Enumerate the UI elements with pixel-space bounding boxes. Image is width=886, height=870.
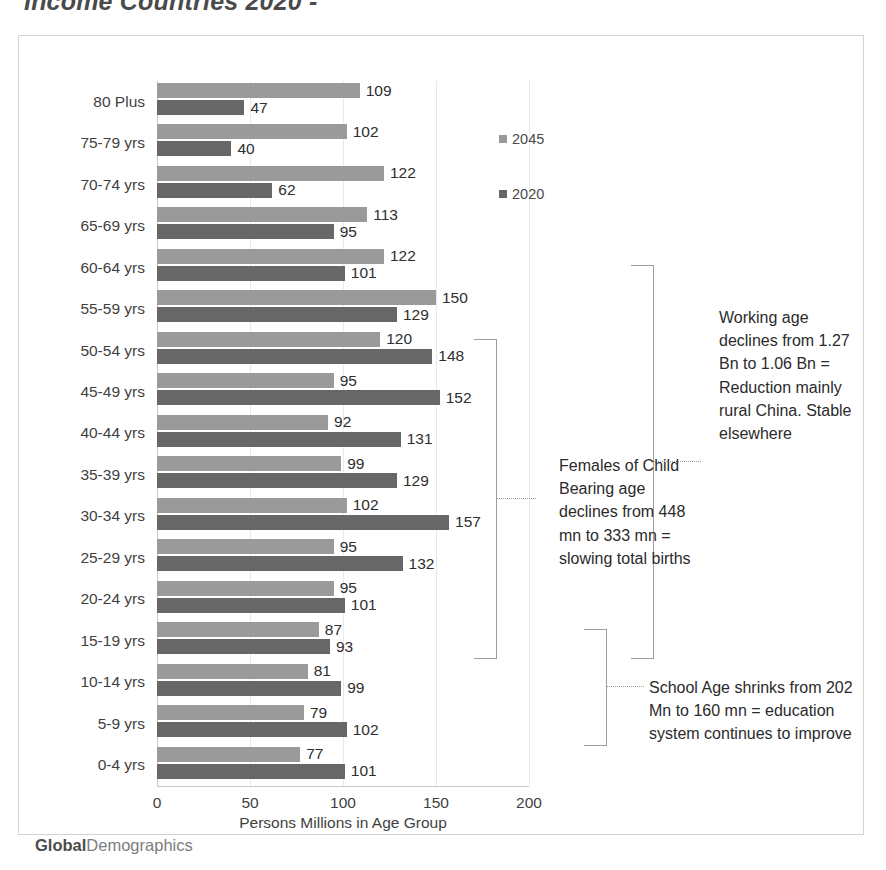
bar-2045[interactable]: 102 bbox=[157, 124, 347, 139]
x-axis-title: Persons Millions in Age Group bbox=[157, 814, 529, 832]
x-tick-label: 0 bbox=[153, 794, 162, 812]
bar-2045[interactable]: 92 bbox=[157, 415, 328, 430]
category-label: 45-49 yrs bbox=[80, 383, 145, 401]
bar-2045[interactable]: 79 bbox=[157, 705, 304, 720]
bar-value-label: 129 bbox=[403, 472, 429, 490]
bar-2020[interactable]: 40 bbox=[157, 141, 231, 156]
annotation-females: Females of Child Bearing age declines fr… bbox=[559, 454, 699, 570]
bar-value-label: 93 bbox=[336, 638, 353, 656]
bar-value-label: 81 bbox=[314, 662, 331, 680]
legend-label: 2020 bbox=[512, 186, 544, 202]
x-tick-label: 150 bbox=[423, 794, 449, 812]
category-label: 0-4 yrs bbox=[98, 756, 145, 774]
bar-2045[interactable]: 120 bbox=[157, 332, 380, 347]
category-label: 25-29 yrs bbox=[80, 549, 145, 567]
category-label: 15-19 yrs bbox=[80, 632, 145, 650]
watermark-bold: Global bbox=[35, 836, 86, 854]
bar-2020[interactable]: 132 bbox=[157, 556, 403, 571]
bar-row: 65-69 yrs11395 bbox=[157, 205, 529, 246]
bar-2020[interactable]: 101 bbox=[157, 266, 345, 281]
bar-2020[interactable]: 62 bbox=[157, 183, 272, 198]
bar-2045[interactable]: 95 bbox=[157, 373, 334, 388]
bar-row: 80 Plus10947 bbox=[157, 81, 529, 122]
bar-value-label: 92 bbox=[334, 413, 351, 431]
category-label: 80 Plus bbox=[93, 93, 145, 111]
bar-value-label: 101 bbox=[351, 596, 377, 614]
bar-row: 0-4 yrs77101 bbox=[157, 745, 529, 786]
category-label: 10-14 yrs bbox=[80, 673, 145, 691]
bar-2020[interactable]: 157 bbox=[157, 515, 449, 530]
watermark-rest: Demographics bbox=[86, 836, 192, 854]
bar-row: 75-79 yrs10240 bbox=[157, 122, 529, 163]
bar-value-label: 102 bbox=[353, 496, 379, 514]
bar-value-label: 95 bbox=[340, 223, 357, 241]
bar-2020[interactable]: 129 bbox=[157, 473, 397, 488]
bar-value-label: 79 bbox=[310, 704, 327, 722]
bar-row: 10-14 yrs8199 bbox=[157, 662, 529, 703]
bar-2045[interactable]: 87 bbox=[157, 622, 319, 637]
bar-value-label: 102 bbox=[353, 123, 379, 141]
bar-value-label: 122 bbox=[390, 247, 416, 265]
category-label: 40-44 yrs bbox=[80, 424, 145, 442]
bar-2020[interactable]: 101 bbox=[157, 598, 345, 613]
bar-2045[interactable]: 113 bbox=[157, 207, 367, 222]
bar-2045[interactable]: 150 bbox=[157, 290, 436, 305]
bracket-school-age-stub bbox=[606, 686, 644, 688]
bar-value-label: 152 bbox=[446, 389, 472, 407]
category-label: 60-64 yrs bbox=[80, 259, 145, 277]
bar-2020[interactable]: 152 bbox=[157, 390, 440, 405]
bar-value-label: 95 bbox=[340, 538, 357, 556]
bar-value-label: 101 bbox=[351, 762, 377, 780]
bar-2020[interactable]: 102 bbox=[157, 722, 347, 737]
bar-2045[interactable]: 77 bbox=[157, 747, 300, 762]
bar-value-label: 131 bbox=[407, 430, 433, 448]
bar-2020[interactable]: 47 bbox=[157, 100, 244, 115]
bar-value-label: 113 bbox=[373, 206, 398, 224]
legend-item-2045[interactable]: 2045 bbox=[499, 131, 544, 147]
bar-2045[interactable]: 95 bbox=[157, 539, 334, 554]
bar-value-label: 132 bbox=[409, 555, 435, 573]
bar-2020[interactable]: 101 bbox=[157, 764, 345, 779]
bar-2045[interactable]: 122 bbox=[157, 166, 384, 181]
x-tick-label: 50 bbox=[241, 794, 258, 812]
annotation-working-age: Working age declines from 1.27 Bn to 1.0… bbox=[719, 306, 869, 445]
bar-value-label: 120 bbox=[386, 330, 412, 348]
bar-value-label: 62 bbox=[278, 181, 295, 199]
bar-value-label: 122 bbox=[390, 164, 416, 182]
bar-value-label: 77 bbox=[306, 745, 323, 763]
bar-2045[interactable]: 99 bbox=[157, 456, 341, 471]
bracket-females-stub bbox=[496, 498, 536, 500]
bar-value-label: 148 bbox=[438, 347, 464, 365]
bar-value-label: 150 bbox=[442, 289, 468, 307]
category-label: 20-24 yrs bbox=[80, 590, 145, 608]
category-label: 35-39 yrs bbox=[80, 466, 145, 484]
bar-2020[interactable]: 99 bbox=[157, 681, 341, 696]
legend-swatch-icon bbox=[499, 190, 507, 198]
bar-row: 60-64 yrs122101 bbox=[157, 247, 529, 288]
bar-2045[interactable]: 122 bbox=[157, 249, 384, 264]
bar-value-label: 99 bbox=[347, 455, 364, 473]
bar-row: 55-59 yrs150129 bbox=[157, 288, 529, 329]
legend-item-2020[interactable]: 2020 bbox=[499, 186, 544, 202]
bar-2045[interactable]: 81 bbox=[157, 664, 308, 679]
annotation-school: School Age shrinks from 202 Mn to 160 mn… bbox=[649, 676, 864, 746]
bar-2020[interactable]: 129 bbox=[157, 307, 397, 322]
bar-2045[interactable]: 95 bbox=[157, 581, 334, 596]
bar-2020[interactable]: 95 bbox=[157, 224, 334, 239]
bracket-females bbox=[474, 339, 497, 659]
category-label: 5-9 yrs bbox=[98, 715, 145, 733]
bar-2020[interactable]: 131 bbox=[157, 432, 401, 447]
legend-swatch-icon bbox=[499, 135, 507, 143]
category-label: 75-79 yrs bbox=[80, 134, 145, 152]
category-label: 70-74 yrs bbox=[80, 176, 145, 194]
bar-2045[interactable]: 109 bbox=[157, 83, 360, 98]
category-label: 65-69 yrs bbox=[80, 217, 145, 235]
x-tick-label: 200 bbox=[516, 794, 542, 812]
bar-2045[interactable]: 102 bbox=[157, 498, 347, 513]
category-label: 30-34 yrs bbox=[80, 507, 145, 525]
bar-value-label: 47 bbox=[250, 99, 267, 117]
bar-value-label: 129 bbox=[403, 306, 429, 324]
bar-2020[interactable]: 148 bbox=[157, 349, 432, 364]
bar-2020[interactable]: 93 bbox=[157, 639, 330, 654]
x-axis-line bbox=[157, 786, 529, 787]
